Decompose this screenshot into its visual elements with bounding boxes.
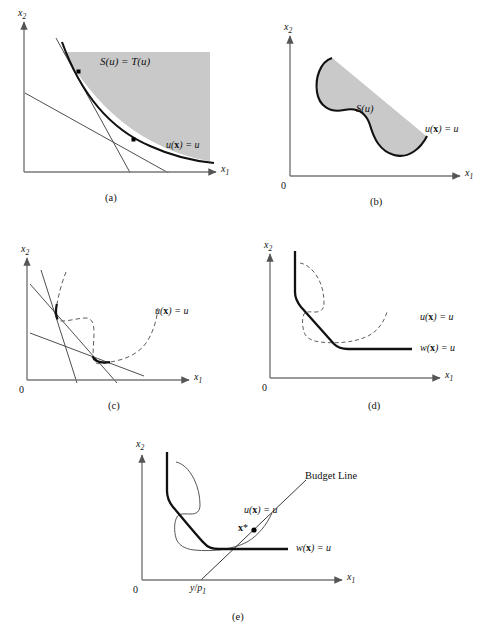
panel-e-caption: (e) — [232, 611, 244, 622]
panel-c-curve-label: u(x) = u — [155, 306, 188, 316]
panel-e-y-axis-label: x2 — [136, 439, 144, 452]
panel-b-caption: (b) — [370, 196, 382, 207]
budget-line-middle — [30, 284, 117, 383]
panel-d-curve-label-w: w(x) = u — [420, 343, 455, 353]
panel-e-optimum-label: x* — [238, 523, 248, 533]
indifference-curve-d-dashed — [300, 263, 387, 343]
panel-e: x2 x1 0 Budget Line u(x) = u w(x) = u x*… — [110, 425, 420, 641]
panel-b-x-axis-label: x1 — [465, 168, 473, 181]
panel-a-curve-label: u(x) = u — [166, 140, 199, 150]
panel-a-plot — [0, 0, 250, 200]
panel-a-caption: (a) — [105, 192, 117, 203]
panel-d: x2 x1 0 u(x) = u w(x) = u (d) — [248, 220, 498, 420]
panel-c-x-axis-label: x1 — [194, 372, 202, 385]
panel-d-caption: (d) — [368, 400, 380, 411]
panel-e-plot — [110, 425, 420, 615]
panel-b-origin-label: 0 — [281, 180, 286, 191]
budget-lines-group-c — [30, 270, 144, 383]
panel-b: x2 x1 0 S(u) u(x) = u (b) — [248, 0, 498, 220]
panel-e-origin-label: 0 — [133, 584, 138, 595]
panel-a-y-axis-label: x2 — [18, 8, 26, 21]
panel-d-curve-label-u: u(x) = u — [420, 312, 453, 322]
panel-e-budget-line-label: Budget Line — [305, 471, 357, 482]
panel-d-y-axis-label: x2 — [264, 240, 272, 253]
tangency-point-1 — [77, 70, 81, 74]
panel-a-region-label: S(u) = T(u) — [100, 56, 150, 67]
panel-c: x2 x1 0 u(x) = u (c) — [0, 220, 250, 420]
panel-c-origin-label: 0 — [19, 384, 24, 395]
panel-b-curve-label: u(x) = u — [425, 124, 458, 134]
panel-b-y-axis-label: x2 — [284, 22, 292, 35]
tangency-arc-c-upper — [56, 304, 58, 319]
panel-b-region-label: S(u) — [356, 104, 374, 115]
tangency-point-2 — [132, 138, 136, 142]
panel-c-y-axis-label: x2 — [21, 244, 29, 257]
panel-e-curve-label-w: w(x) = u — [296, 543, 331, 553]
panel-a-x-axis-label: x1 — [221, 164, 229, 177]
panel-d-x-axis-label: x1 — [445, 370, 453, 383]
panel-c-caption: (c) — [108, 400, 120, 411]
budget-line-shallow — [30, 333, 144, 376]
panel-e-x-axis-label: x1 — [347, 572, 355, 585]
panel-e-curve-label-u: u(x) = u — [244, 505, 277, 515]
panel-e-x-tick-label: y/p1 — [190, 583, 206, 596]
panel-c-plot — [0, 220, 250, 405]
optimum-point-marker — [251, 527, 256, 532]
indifference-curve-c-dashed — [56, 272, 158, 364]
panel-a: x2 x1 S(u) = T(u) u(x) = u (a) — [0, 0, 250, 220]
budget-line-steepest — [41, 270, 77, 383]
convexified-contour-d — [295, 251, 412, 349]
panel-d-plot — [248, 220, 498, 405]
panel-d-origin-label: 0 — [262, 382, 267, 393]
